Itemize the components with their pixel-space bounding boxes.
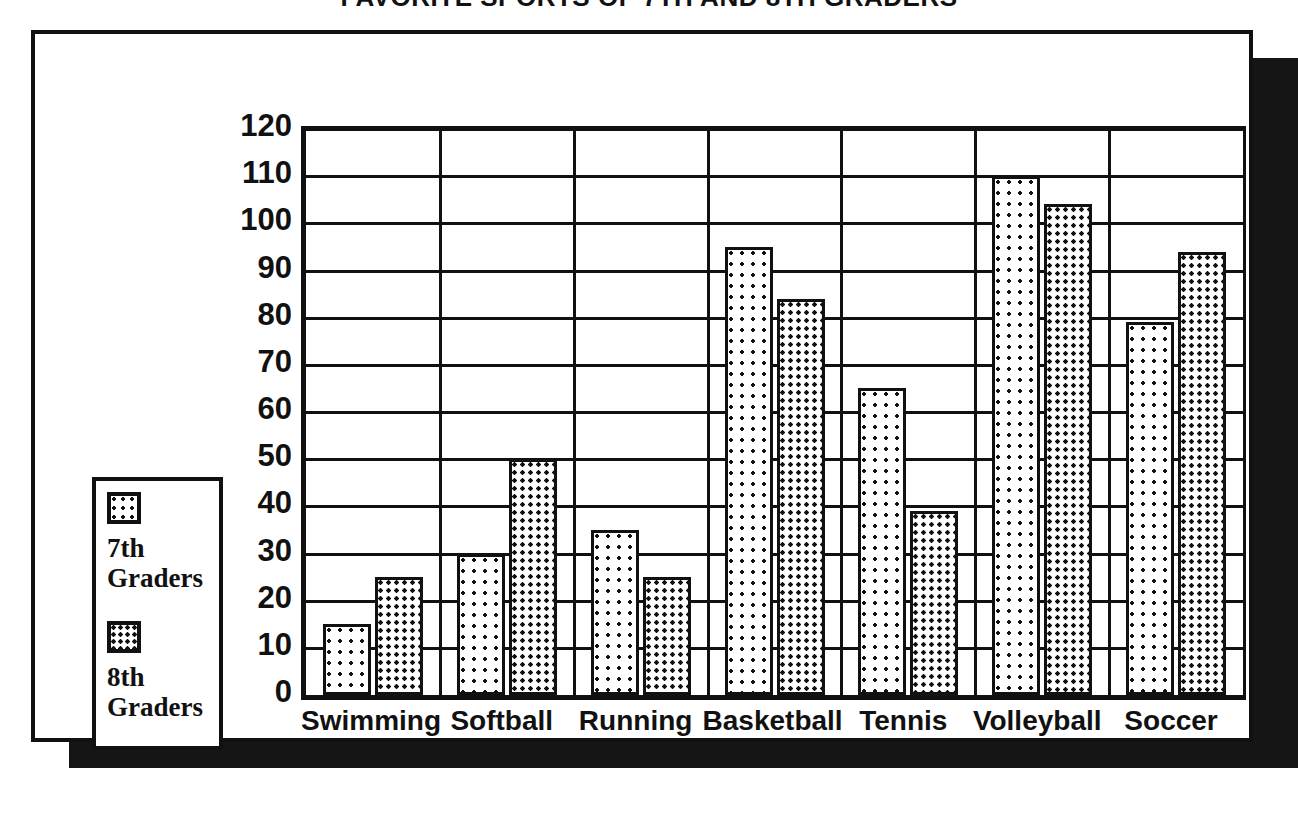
- x-axis-label-running: Running: [569, 704, 703, 738]
- gridline: [306, 600, 1243, 603]
- y-axis-tick-label: 70: [220, 346, 292, 377]
- group-separator: [974, 129, 977, 695]
- bar-soccer-8th-graders: [1178, 252, 1226, 695]
- bar-volleyball-7th-graders: [992, 176, 1040, 695]
- gridline: [306, 128, 1243, 131]
- group-separator: [840, 129, 843, 695]
- bar-tennis-7th-graders: [858, 388, 906, 695]
- y-axis-tick-label: 0: [220, 676, 292, 707]
- legend-swatch-icon-8th-graders: [107, 621, 141, 653]
- bar-softball-8th-graders: [509, 459, 557, 695]
- gridline: [306, 458, 1243, 461]
- gridline: [306, 647, 1243, 650]
- x-axis-label-swimming: Swimming: [301, 704, 435, 738]
- bar-volleyball-8th-graders: [1044, 204, 1092, 695]
- legend-item-7th-graders: 7th Graders: [107, 492, 219, 593]
- bar-running-7th-graders: [591, 530, 639, 695]
- gridline: [306, 553, 1243, 556]
- y-axis: 1201101009080706050403020100: [220, 112, 292, 708]
- bar-basketball-7th-graders: [725, 247, 773, 695]
- y-axis-tick-label: 20: [220, 582, 292, 613]
- group-separator: [573, 129, 576, 695]
- group-separator: [1108, 129, 1111, 695]
- y-axis-tick-label: 110: [220, 157, 292, 188]
- gridline: [306, 222, 1243, 225]
- bar-swimming-7th-graders: [323, 624, 371, 695]
- bar-tennis-8th-graders: [910, 511, 958, 695]
- legend-label-7th-graders: 7th Graders: [107, 533, 219, 593]
- y-axis-tick-label: 50: [220, 440, 292, 471]
- page-title: FAVORITE SPORTS OF 7TH AND 8TH GRADERS: [0, 0, 1298, 12]
- x-axis-label-softball: Softball: [435, 704, 569, 738]
- plot-inner: [306, 129, 1243, 695]
- x-axis-label-basketball: Basketball: [703, 704, 837, 738]
- group-separator: [439, 129, 442, 695]
- x-axis-label-volleyball: Volleyball: [970, 704, 1104, 738]
- x-axis-label-soccer: Soccer: [1104, 704, 1238, 738]
- y-axis-tick-label: 80: [220, 299, 292, 330]
- chart-card: 1201101009080706050403020100 SwimmingSof…: [31, 30, 1253, 742]
- y-axis-tick-label: 60: [220, 393, 292, 424]
- group-separator: [707, 129, 710, 695]
- bar-soccer-7th-graders: [1126, 322, 1174, 695]
- legend-item-8th-graders: 8th Graders: [107, 621, 219, 722]
- gridline: [306, 175, 1243, 178]
- x-axis: SwimmingSoftballRunningBasketballTennisV…: [301, 704, 1241, 748]
- legend-label-8th-graders: 8th Graders: [107, 662, 219, 722]
- x-axis-label-tennis: Tennis: [836, 704, 970, 738]
- gridline: [306, 411, 1243, 414]
- gridline: [306, 505, 1243, 508]
- y-axis-tick-label: 90: [220, 252, 292, 283]
- gridline: [306, 270, 1243, 273]
- plot-area: [301, 126, 1246, 700]
- gridline: [306, 317, 1243, 320]
- bar-basketball-8th-graders: [777, 299, 825, 695]
- gridline: [306, 364, 1243, 367]
- y-axis-tick-label: 100: [220, 204, 292, 235]
- y-axis-tick-label: 120: [220, 110, 292, 141]
- bar-running-8th-graders: [643, 577, 691, 695]
- y-axis-tick-label: 10: [220, 629, 292, 660]
- y-axis-tick-label: 40: [220, 487, 292, 518]
- legend-swatch-icon-7th-graders: [107, 492, 141, 524]
- bar-softball-7th-graders: [457, 554, 505, 696]
- chart-legend: 7th Graders 8th Graders: [92, 477, 223, 750]
- y-axis-tick-label: 30: [220, 535, 292, 566]
- bar-swimming-8th-graders: [375, 577, 423, 695]
